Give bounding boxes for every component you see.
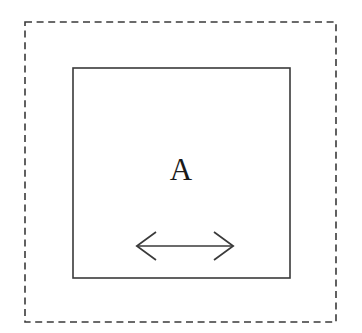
figure-diagram: A <box>0 0 362 333</box>
figure-canvas: A <box>0 0 362 333</box>
region-label-a: A <box>170 152 193 187</box>
